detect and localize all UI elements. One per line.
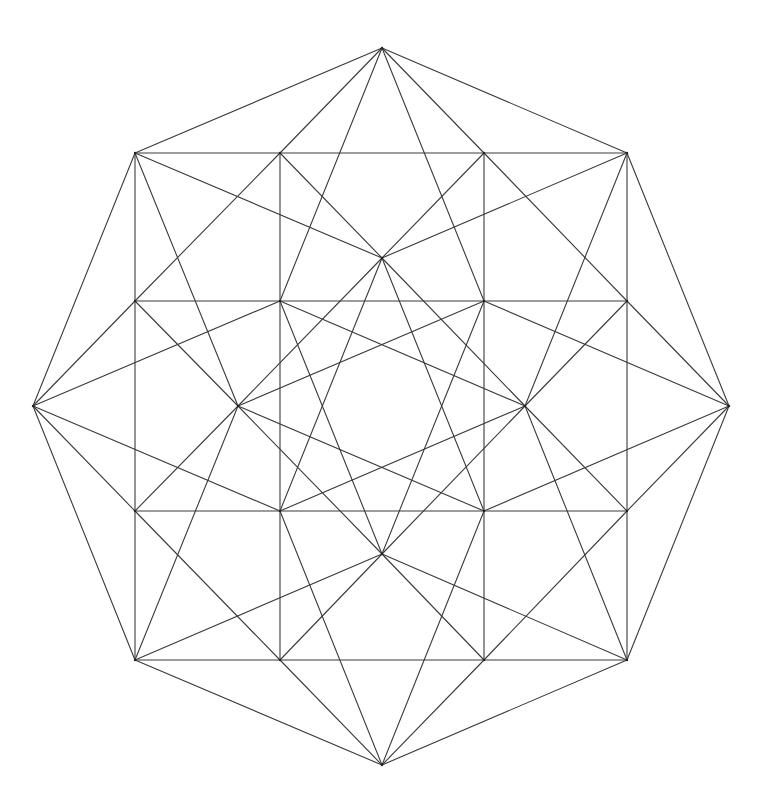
edge-L-s1 <box>33 301 280 406</box>
edge-C2-iR <box>525 153 627 406</box>
vertex-iB <box>381 553 383 555</box>
edge-s4-iT <box>280 258 382 511</box>
vertex-C4 <box>134 659 136 661</box>
edge-e4-e5 <box>484 511 627 660</box>
vertex-C2 <box>626 152 628 154</box>
edge-L-C4 <box>33 406 135 660</box>
vertex-e7 <box>134 510 136 512</box>
edge-C1-iL <box>135 153 238 406</box>
edge-T-C1 <box>135 48 382 153</box>
edge-T-e2 <box>382 48 484 153</box>
edge-C1-iT <box>135 153 382 258</box>
edge-R-e3 <box>627 301 729 406</box>
edge-s1-iB <box>280 301 382 554</box>
edge-s4-iR <box>280 406 525 511</box>
edge-e6-iB <box>280 554 382 660</box>
edge-e6-e7 <box>135 511 280 660</box>
edge-e4-iR <box>525 406 627 511</box>
vertex-iT <box>381 257 383 259</box>
edge-iL-iT <box>238 258 382 406</box>
edge-R-s3 <box>484 406 729 511</box>
edge-B-C3 <box>382 660 627 765</box>
vertex-R <box>728 405 730 407</box>
vertex-s3 <box>483 510 485 512</box>
edge-e2-iT <box>382 153 484 258</box>
edge-e2-e3 <box>484 153 627 301</box>
edge-L-s4 <box>33 406 280 511</box>
vertex-e5 <box>483 659 485 661</box>
vertex-e4 <box>626 510 628 512</box>
edge-B-e5 <box>382 660 484 765</box>
edge-R-e4 <box>627 406 729 511</box>
vertex-e2 <box>483 152 485 154</box>
edge-C2-iT <box>382 153 627 258</box>
vertex-iR <box>524 405 526 407</box>
edge-s2-iB <box>382 301 484 554</box>
edge-L-C1 <box>33 153 135 406</box>
edge-R-C2 <box>627 153 729 406</box>
vertex-C3 <box>626 659 628 661</box>
vertex-s4 <box>279 510 281 512</box>
vertex-B <box>381 764 383 766</box>
edge-T-s1 <box>280 48 382 301</box>
edge-iR-iB <box>382 406 525 554</box>
edge-iB-iL <box>238 406 382 554</box>
edge-e5-iB <box>382 554 484 660</box>
polytope-diagram <box>0 0 778 810</box>
edge-B-C4 <box>135 660 382 765</box>
edge-iT-iR <box>382 258 525 406</box>
edge-group <box>33 48 729 765</box>
vertex-L <box>32 405 34 407</box>
edge-e1-iT <box>280 153 382 258</box>
edge-e1-e8 <box>135 153 280 301</box>
vertex-s2 <box>483 300 485 302</box>
edge-T-C2 <box>382 48 627 153</box>
edge-R-s2 <box>484 301 729 406</box>
vertex-e3 <box>626 300 628 302</box>
edge-T-e1 <box>280 48 382 153</box>
edge-L-e7 <box>33 406 135 511</box>
vertex-T <box>381 47 383 49</box>
edge-s3-iT <box>382 258 484 511</box>
vertex-group <box>32 47 730 766</box>
edge-B-s4 <box>280 511 382 765</box>
vertex-C1 <box>134 152 136 154</box>
edge-s2-iL <box>238 301 484 406</box>
vertex-s1 <box>279 300 281 302</box>
edge-T-s2 <box>382 48 484 301</box>
edge-B-s3 <box>382 511 484 765</box>
edge-s3-iL <box>238 406 484 511</box>
vertex-e1 <box>279 152 281 154</box>
edge-e3-iR <box>525 301 627 406</box>
edge-B-e6 <box>280 660 382 765</box>
edge-s1-iR <box>280 301 525 406</box>
edge-e7-iL <box>135 406 238 511</box>
vertex-e8 <box>134 300 136 302</box>
vertex-iL <box>237 405 239 407</box>
edge-e8-iL <box>135 301 238 406</box>
edge-R-C3 <box>627 406 729 660</box>
vertex-e6 <box>279 659 281 661</box>
edge-L-e8 <box>33 301 135 406</box>
